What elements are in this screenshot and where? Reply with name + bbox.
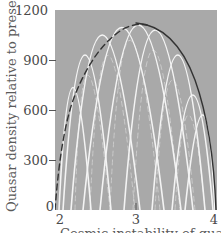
y-tick-900: 900 (8, 54, 48, 67)
x-tick-3: 3 (126, 213, 146, 226)
x-axis-label: Cosmic instability of quasars (60, 226, 221, 233)
y-tick-mark-600 (49, 110, 56, 111)
y-tick-mark-900 (49, 60, 56, 61)
x-tick-2: 2 (50, 213, 70, 226)
plot-curves (55, 10, 217, 210)
y-tick-mark-300 (49, 160, 56, 161)
x-tick-4: 4 (204, 213, 221, 226)
y-tick-0: 0 (8, 200, 54, 213)
y-tick-600: 600 (8, 104, 48, 117)
y-tick-300: 300 (8, 154, 48, 167)
y-tick-1200: 1200 (8, 4, 48, 17)
plot-area (55, 10, 217, 210)
